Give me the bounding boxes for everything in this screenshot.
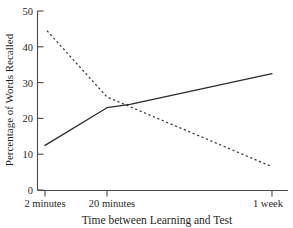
x-tick-label-20-minutes: 20 minutes <box>89 198 135 209</box>
y-axis-title: Percentage of Words Recalled <box>3 33 15 166</box>
series-solid-line <box>45 74 272 146</box>
y-tick-label-20: 20 <box>23 113 34 124</box>
y-tick-label-40: 40 <box>23 42 34 53</box>
y-axis-ticks <box>38 11 44 190</box>
chart-plot-area: 50 40 30 20 10 0 2 minutes 20 minutes 1 … <box>0 0 293 228</box>
y-tick-label-10: 10 <box>23 149 34 160</box>
y-tick-label-0: 0 <box>28 185 33 196</box>
chart-container: 50 40 30 20 10 0 2 minutes 20 minutes 1 … <box>0 0 293 228</box>
y-tick-label-50: 50 <box>23 6 34 17</box>
series-dashed-line <box>47 31 272 167</box>
x-axis-ticks <box>45 191 272 197</box>
x-tick-label-2-minutes: 2 minutes <box>24 198 65 209</box>
x-tick-label-1-week: 1 week <box>253 198 284 209</box>
x-axis-title: Time between Learning and Test <box>82 214 233 227</box>
y-tick-label-30: 30 <box>23 78 34 89</box>
